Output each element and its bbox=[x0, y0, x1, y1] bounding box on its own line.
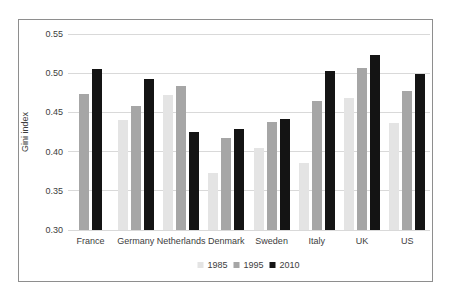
bar-UK-2010 bbox=[370, 55, 380, 230]
y-tick-0.30: 0.30 bbox=[45, 225, 63, 235]
bars bbox=[79, 55, 425, 230]
y-tick-0.50: 0.50 bbox=[45, 68, 63, 78]
x-tick-Germany: Germany bbox=[117, 236, 155, 246]
bar-France-2010 bbox=[92, 69, 102, 230]
x-tick-Italy: Italy bbox=[309, 236, 326, 246]
legend-label-2010: 2010 bbox=[280, 260, 300, 270]
bar-Italy-1985 bbox=[299, 163, 309, 230]
y-axis-title: Gini index bbox=[20, 111, 30, 152]
bar-US-1985 bbox=[389, 123, 399, 230]
bar-Netherlands-1995 bbox=[176, 86, 186, 230]
x-tick-Denmark: Denmark bbox=[208, 236, 245, 246]
x-tick-UK: UK bbox=[356, 236, 369, 246]
gini-bar-chart: 0.300.350.400.450.500.55 FranceGermanyNe… bbox=[19, 20, 432, 281]
bar-Netherlands-2010 bbox=[189, 132, 199, 230]
legend-swatch-1995 bbox=[234, 262, 240, 268]
y-tick-0.45: 0.45 bbox=[45, 107, 63, 117]
legend-item-2010: 2010 bbox=[270, 260, 300, 270]
legend-item-1995: 1995 bbox=[234, 260, 264, 270]
legend-label-1985: 1985 bbox=[208, 260, 228, 270]
bar-Sweden-2010 bbox=[280, 119, 290, 230]
y-tick-0.35: 0.35 bbox=[45, 186, 63, 196]
bar-Denmark-1985 bbox=[208, 173, 218, 230]
bar-US-1995 bbox=[402, 91, 412, 230]
legend-swatch-2010 bbox=[270, 262, 276, 268]
x-axis-tick-labels: FranceGermanyNetherlandsDenmarkSwedenIta… bbox=[77, 236, 414, 246]
bar-France-1995 bbox=[79, 94, 89, 230]
bar-UK-1995 bbox=[357, 68, 367, 230]
x-tick-US: US bbox=[401, 236, 414, 246]
y-tick-0.40: 0.40 bbox=[45, 147, 63, 157]
x-tick-Netherlands: Netherlands bbox=[157, 236, 206, 246]
bar-US-2010 bbox=[415, 74, 425, 230]
chart-legend: 198519952010 bbox=[198, 260, 300, 270]
bar-Netherlands-1985 bbox=[163, 95, 173, 230]
bar-Germany-1995 bbox=[131, 106, 141, 230]
chart-frame: 0.300.350.400.450.500.55 FranceGermanyNe… bbox=[18, 19, 433, 282]
legend-swatch-1985 bbox=[198, 262, 204, 268]
y-tick-0.55: 0.55 bbox=[45, 29, 63, 39]
legend-label-1995: 1995 bbox=[244, 260, 264, 270]
bar-Germany-1985 bbox=[118, 120, 128, 230]
bar-UK-1985 bbox=[344, 98, 354, 230]
bar-Sweden-1985 bbox=[254, 148, 264, 230]
legend-item-1985: 1985 bbox=[198, 260, 228, 270]
bar-Italy-2010 bbox=[325, 71, 335, 230]
chart-canvas: 0.300.350.400.450.500.55 FranceGermanyNe… bbox=[0, 0, 449, 300]
y-axis-tick-labels: 0.300.350.400.450.500.55 bbox=[45, 29, 63, 235]
bar-Italy-1995 bbox=[312, 101, 322, 230]
bar-Denmark-2010 bbox=[234, 129, 244, 230]
x-tick-France: France bbox=[77, 236, 105, 246]
x-tick-Sweden: Sweden bbox=[255, 236, 288, 246]
bar-Denmark-1995 bbox=[221, 138, 231, 230]
bar-Germany-2010 bbox=[144, 79, 154, 230]
bar-Sweden-1995 bbox=[267, 122, 277, 230]
